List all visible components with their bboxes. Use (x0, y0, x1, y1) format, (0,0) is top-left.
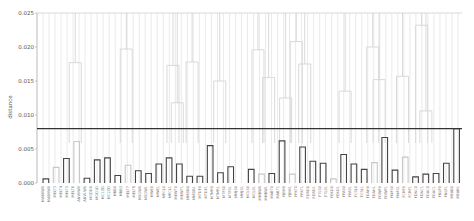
leaf-label: MMDB0 (186, 185, 190, 199)
leaf-label: MOD1D (95, 186, 99, 200)
leaf-label: FDWP1 (384, 186, 388, 199)
cluster-link (187, 176, 193, 183)
leaf-label: MELT3 (53, 186, 57, 197)
leaf-label: FDAC1 (432, 186, 436, 198)
leaf-label: FCRP0 (402, 185, 406, 197)
leaf-label: FEKD0 (330, 185, 334, 197)
cluster-link (392, 170, 398, 183)
leaf-label: FKMS0 (390, 185, 394, 198)
leaf-label: MBB0 (113, 185, 117, 196)
leaf-label: ANV0W0 (77, 185, 81, 201)
cluster-link (146, 173, 152, 183)
leaf-label: FPKT1 (300, 186, 304, 197)
cluster-link (413, 177, 419, 183)
cluster-link (279, 141, 285, 183)
leaf-label: FEKD1 (336, 186, 340, 198)
leaf-label: MTMR0 (210, 185, 214, 199)
leaf-label: MC2ZD (107, 186, 111, 199)
leaf-label: FTLS0 (318, 185, 322, 196)
leaf-label: FDRD0 (306, 185, 310, 198)
leaf-label: FNLP1 (444, 186, 448, 197)
y-tick-label: 0.015 (18, 78, 34, 84)
cluster-link (300, 147, 306, 183)
upper-merge-link (263, 13, 275, 143)
cluster-link (197, 176, 203, 183)
leaf-label: MPCL1 (168, 186, 172, 198)
leaf-label: MEWT1 (180, 186, 184, 199)
cluster-link (207, 146, 213, 183)
upper-merge-link (339, 13, 351, 143)
leaf-label: FDAC0 (426, 185, 430, 198)
leaf-label: MBB3 (119, 186, 123, 196)
leaf-label: MPCL0 (162, 185, 166, 198)
leaf-label: MSGW1 (144, 186, 148, 200)
leaf-label: MELT6 (71, 185, 75, 197)
y-tick-label: 0.000 (18, 180, 34, 186)
cluster-link (320, 163, 326, 183)
cluster-link (372, 163, 378, 183)
leaf-label: FDNC1 (420, 186, 424, 198)
leaf-label: MMBW0 (258, 185, 262, 200)
leaf-label: MEAB1 (456, 186, 460, 199)
leaf-label: FDAH1 (372, 186, 376, 198)
leaf-label: FPAS1 (348, 186, 352, 197)
leaf-label: FPAS0 (342, 185, 346, 197)
leaf-label: MELT4 (59, 185, 63, 197)
leaf-label: MAB9W0 (47, 185, 51, 202)
leaf-label: MTMR1 (216, 186, 220, 199)
leaf-label: MTFS1 (228, 186, 232, 198)
leaf-label: FJEM0 (282, 185, 286, 196)
leaf-label: FDWP0 (378, 185, 382, 199)
leaf-label: MMBW1 (264, 186, 268, 200)
cluster-link (382, 137, 388, 183)
cluster-link (218, 173, 224, 183)
cluster-link (444, 163, 450, 183)
leaf-label: FDAH0 (366, 185, 370, 198)
cluster-link (53, 167, 59, 183)
cluster-link (135, 171, 141, 183)
upper-merge-link (186, 13, 198, 143)
cluster-link (361, 169, 367, 183)
low-clusters (43, 129, 459, 183)
y-tick-label: 0.020 (18, 44, 34, 50)
leaf-label: MEWT0 (174, 185, 178, 199)
leaf-label: MTFS0 (222, 185, 226, 198)
leaf-label: MMDB1 (192, 186, 196, 200)
cluster-link (402, 157, 408, 183)
leaf-label: MAB8W0 (41, 185, 45, 202)
leaf-label: FJEM1 (288, 186, 292, 197)
leaf-label: MEAB0 (450, 185, 454, 198)
leaf-label: FKMS1 (396, 186, 400, 198)
upper-links (69, 13, 432, 143)
leaf-label: MODD0 (89, 185, 93, 199)
leaf-label: FDRD1 (312, 186, 316, 198)
leaf-label: MTDF0 (198, 185, 202, 198)
leaf-label: MCLS0 (246, 185, 250, 198)
leaf-label: MWE1 (156, 186, 160, 197)
upper-merge-link (120, 13, 132, 143)
y-tick-label: 0.005 (18, 146, 34, 152)
leaf-label: FPKT0 (294, 185, 298, 197)
leaf-label: MABT1 (276, 186, 280, 199)
leaf-label: FTLS1 (324, 186, 328, 197)
y-axis-label: distance (7, 95, 13, 119)
cluster-link (43, 179, 49, 183)
leaf-label: MC1ZD (101, 186, 105, 199)
cluster-link (310, 161, 316, 183)
leaf-label: MABT0 (270, 185, 274, 198)
leaf-label: MWE0 (150, 185, 154, 197)
leaf-label: FCSL1 (360, 186, 364, 197)
leaf-label: ANV1W0 (83, 185, 87, 201)
upper-merge-link (214, 13, 226, 143)
cluster-link (74, 142, 80, 183)
dendrogram-chart: 0.0000.0050.0100.0150.0200.025 MAB8W0MAB… (0, 0, 474, 221)
leaf-label: MMJS1 (240, 186, 244, 198)
cluster-link (115, 176, 121, 183)
leaf-label: FCSL0 (354, 185, 358, 197)
leaf-label: MMJS0 (234, 185, 238, 198)
cluster-link (228, 167, 234, 183)
upper-merge-link (396, 13, 408, 143)
leaf-label: MELT7 (126, 186, 130, 197)
leaf-label: MTDF1 (204, 186, 208, 198)
cluster-link (454, 129, 460, 183)
